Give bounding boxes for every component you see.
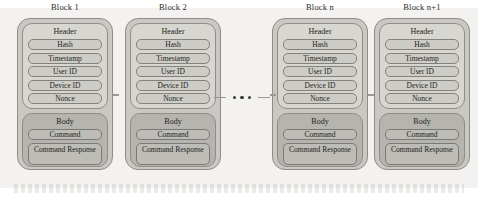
block-body-panel: Body Command Command Response	[22, 113, 108, 167]
field-device-id: Device ID	[385, 80, 459, 91]
field-command: Command	[385, 129, 459, 140]
block-shell: Header Hash Timestamp User ID Device ID …	[125, 18, 221, 170]
block-shell: Header Hash Timestamp User ID Device ID …	[17, 18, 113, 170]
field-nonce: Nonce	[28, 93, 102, 104]
field-user-id: User ID	[283, 66, 357, 77]
ellipsis-dot-icon	[233, 96, 236, 99]
field-user-id: User ID	[385, 66, 459, 77]
block-chain: Block 1 Header Hash Timestamp User ID De…	[0, 0, 478, 197]
field-hash: Hash	[136, 39, 210, 50]
field-device-id: Device ID	[136, 80, 210, 91]
connector-line-left	[214, 97, 226, 98]
block-title: Block 1	[17, 2, 113, 12]
field-user-id: User ID	[136, 66, 210, 77]
block-body-panel: Body Command Command Response	[379, 113, 465, 167]
field-command: Command	[283, 129, 357, 140]
field-timestamp: Timestamp	[28, 53, 102, 64]
block-header-panel: Header Hash Timestamp User ID Device ID …	[277, 23, 363, 109]
block-1: Block 1 Header Hash Timestamp User ID De…	[17, 18, 113, 170]
chain-link-nub	[368, 94, 374, 96]
field-nonce: Nonce	[136, 93, 210, 104]
body-label: Body	[28, 117, 102, 127]
block-shell: Header Hash Timestamp User ID Device ID …	[374, 18, 470, 170]
field-nonce: Nonce	[385, 93, 459, 104]
field-timestamp: Timestamp	[136, 53, 210, 64]
header-label: Header	[28, 27, 102, 37]
chain-link-nub	[270, 94, 276, 96]
block-body-panel: Body Command Command Response	[277, 113, 363, 167]
body-label: Body	[385, 117, 459, 127]
ellipsis-dots	[233, 96, 251, 99]
blockchain-diagram: Block 1 Header Hash Timestamp User ID De…	[0, 0, 478, 197]
field-hash: Hash	[283, 39, 357, 50]
field-timestamp: Timestamp	[385, 53, 459, 64]
header-label: Header	[283, 27, 357, 37]
field-command-response: Command Response	[283, 143, 357, 165]
field-hash: Hash	[28, 39, 102, 50]
field-command-response: Command Response	[28, 143, 102, 165]
body-label: Body	[283, 117, 357, 127]
field-user-id: User ID	[28, 66, 102, 77]
field-timestamp: Timestamp	[283, 53, 357, 64]
chain-ellipsis-connector	[214, 94, 270, 101]
header-label: Header	[385, 27, 459, 37]
header-label: Header	[136, 27, 210, 37]
ellipsis-dot-icon	[248, 96, 251, 99]
block-header-panel: Header Hash Timestamp User ID Device ID …	[22, 23, 108, 109]
block-header-panel: Header Hash Timestamp User ID Device ID …	[379, 23, 465, 109]
field-device-id: Device ID	[283, 80, 357, 91]
field-command: Command	[136, 129, 210, 140]
field-command: Command	[28, 129, 102, 140]
block-header-panel: Header Hash Timestamp User ID Device ID …	[130, 23, 216, 109]
block-n-plus-1: Block n+1 Header Hash Timestamp User ID …	[374, 18, 470, 170]
block-body-panel: Body Command Command Response	[130, 113, 216, 167]
block-title: Block 2	[125, 2, 221, 12]
chain-link-nub	[113, 94, 119, 96]
block-title: Block n	[272, 2, 368, 12]
scan-bleedthrough-text	[14, 184, 464, 193]
block-title: Block n+1	[374, 2, 470, 12]
field-device-id: Device ID	[28, 80, 102, 91]
connector-line-right	[258, 97, 270, 98]
field-command-response: Command Response	[136, 143, 210, 165]
field-command-response: Command Response	[385, 143, 459, 165]
block-n: Block n Header Hash Timestamp User ID De…	[272, 18, 368, 170]
block-shell: Header Hash Timestamp User ID Device ID …	[272, 18, 368, 170]
block-2: Block 2 Header Hash Timestamp User ID De…	[125, 18, 221, 170]
field-hash: Hash	[385, 39, 459, 50]
ellipsis-dot-icon	[240, 96, 243, 99]
body-label: Body	[136, 117, 210, 127]
field-nonce: Nonce	[283, 93, 357, 104]
